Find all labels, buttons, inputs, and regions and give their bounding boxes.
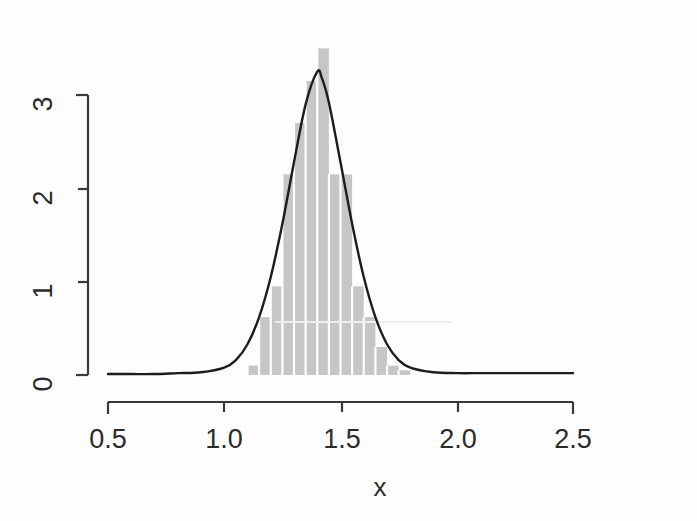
density-histogram-plot: 0 1 2 3 0.5 1.0 1.5 2.0 2.5 x: [0, 0, 697, 521]
histogram-bar: [248, 366, 260, 375]
x-axis: [108, 402, 573, 414]
xtick-label-2: 1.5: [302, 424, 382, 455]
histogram-bar: [282, 174, 294, 375]
histogram-bar: [259, 317, 271, 375]
ytick-label-0: 0: [28, 362, 59, 392]
y-axis: [76, 95, 88, 375]
histogram-bar: [271, 286, 283, 375]
ytick-label-2: 2: [28, 176, 59, 206]
histogram-bar: [294, 123, 306, 375]
ytick-label-3: 3: [28, 82, 59, 112]
histogram-bar: [399, 370, 411, 375]
histogram-bar: [364, 317, 376, 375]
xtick-label-0: 0.5: [68, 424, 148, 455]
histogram-bar: [375, 347, 387, 375]
xtick-label-3: 2.0: [418, 424, 498, 455]
histogram-bar: [341, 174, 353, 375]
xtick-label-1: 1.0: [184, 424, 264, 455]
x-axis-title: x: [330, 472, 430, 503]
ytick-label-1: 1: [28, 269, 59, 299]
xtick-label-4: 2.5: [533, 424, 613, 455]
histogram-bar: [352, 286, 364, 375]
histogram-bar: [329, 174, 341, 375]
histogram-bar: [387, 366, 399, 375]
histogram-bar: [306, 81, 318, 375]
